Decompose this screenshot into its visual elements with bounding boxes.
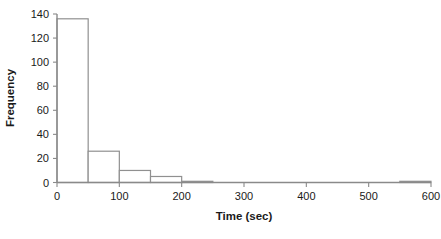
y-tick-label: 100	[31, 56, 49, 68]
histogram-figure: 020406080100120140 Frequency 01002003004…	[0, 0, 441, 239]
y-axis-title: Frequency	[4, 68, 16, 127]
y-tick-label: 40	[37, 128, 49, 140]
x-tick-label: 0	[54, 190, 60, 202]
histogram-bar	[88, 151, 119, 182]
x-tick-label: 300	[235, 190, 253, 202]
x-tick-label: 100	[110, 190, 128, 202]
y-tick-label: 80	[37, 80, 49, 92]
x-tick-label: 400	[297, 190, 315, 202]
y-tick-label: 20	[37, 152, 49, 164]
x-axis-title: Time (sec)	[216, 210, 273, 222]
y-tick-label: 60	[37, 104, 49, 116]
histogram-bar	[119, 170, 150, 182]
histogram-bar	[57, 19, 88, 183]
y-tick-label: 0	[43, 177, 49, 189]
y-tick-label: 140	[31, 8, 49, 20]
histogram-bar	[151, 176, 182, 182]
x-tick-label: 200	[172, 190, 190, 202]
histogram-plot: 020406080100120140 Frequency 01002003004…	[0, 0, 441, 239]
x-tick-label: 500	[359, 190, 377, 202]
x-tick-label: 600	[422, 190, 440, 202]
y-tick-label: 120	[31, 32, 49, 44]
